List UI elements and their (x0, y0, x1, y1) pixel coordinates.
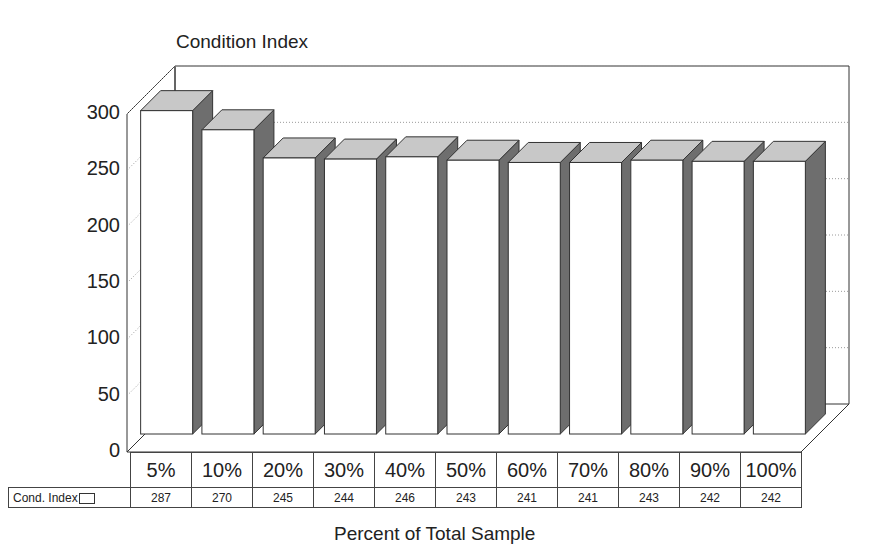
value-cell: 245 (253, 488, 314, 508)
y-tick-label: 50 (64, 383, 120, 406)
category-label: 70% (558, 453, 619, 488)
value-cell: 246 (375, 488, 436, 508)
value-cell: 241 (497, 488, 558, 508)
value-row: Cond. Index 2872702452442462432412412432… (9, 488, 802, 508)
series-name: Cond. Index (13, 491, 78, 505)
legend-swatch-icon (79, 493, 95, 504)
value-cell: 243 (436, 488, 497, 508)
bar-30% (324, 159, 376, 434)
y-tick-label: 150 (64, 270, 120, 293)
value-cell: 287 (131, 488, 192, 508)
value-cell: 242 (741, 488, 802, 508)
value-cell: 243 (619, 488, 680, 508)
legend-row-label: Cond. Index (9, 488, 131, 508)
category-label: 50% (436, 453, 497, 488)
category-label: 90% (680, 453, 741, 488)
value-cell: 242 (680, 488, 741, 508)
bar-70% (570, 162, 622, 434)
chart-title: Condition Index (176, 31, 308, 53)
category-label: 30% (314, 453, 375, 488)
bar-20% (263, 158, 315, 434)
category-label: 10% (192, 453, 253, 488)
bar-40% (386, 157, 438, 434)
value-cell: 270 (192, 488, 253, 508)
table-corner (9, 453, 131, 488)
y-tick-label: 100 (64, 326, 120, 349)
category-row: 5%10%20%30%40%50%60%70%80%90%100% (9, 453, 802, 488)
bar-90% (692, 161, 744, 434)
bar-10% (202, 130, 254, 434)
category-label: 40% (375, 453, 436, 488)
bar-80% (631, 160, 683, 434)
bar-50% (447, 160, 499, 434)
y-tick-label: 250 (64, 157, 120, 180)
value-cell: 244 (314, 488, 375, 508)
bar-60% (508, 162, 560, 434)
data-table: 5%10%20%30%40%50%60%70%80%90%100% Cond. … (8, 452, 802, 508)
value-cell: 241 (558, 488, 619, 508)
bar-5% (141, 111, 193, 434)
category-label: 60% (497, 453, 558, 488)
category-label: 20% (253, 453, 314, 488)
bar-100% (753, 161, 805, 434)
category-label: 80% (619, 453, 680, 488)
category-label: 100% (741, 453, 802, 488)
x-axis-label: Percent of Total Sample (334, 523, 535, 545)
y-tick-label: 300 (64, 101, 120, 124)
category-label: 5% (131, 453, 192, 488)
bar-side (805, 141, 825, 434)
y-tick-label: 200 (64, 214, 120, 237)
